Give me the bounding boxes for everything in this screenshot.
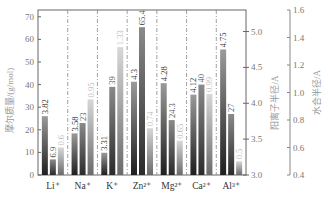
left-axis-label: 摩尔质量/(g/mol) (4, 68, 15, 134)
right-axis-tick: 5.0 (251, 27, 263, 37)
bar-value-label: 0.74 (145, 111, 155, 127)
category-label: Zn²⁺ (133, 181, 151, 191)
category-label: Al³⁺ (222, 181, 239, 191)
category-label: Na⁺ (75, 181, 91, 191)
bar (50, 159, 56, 175)
bar (139, 27, 145, 175)
outer-axis-tick: 1.6 (293, 5, 305, 15)
right-axis-tick: 3.5 (251, 134, 263, 144)
bar-value-label: 0.99 (204, 77, 214, 92)
right-axis-tick: 3.0 (251, 170, 263, 180)
outer-axis-tick: 0.6 (293, 143, 305, 153)
outer-axis-tick: 0.8 (293, 115, 305, 125)
left-axis-tick: 70 (25, 12, 35, 22)
bar-value-label: 0.65 (175, 124, 185, 139)
bar (72, 133, 78, 175)
bar (190, 95, 196, 175)
category-label: Li⁺ (46, 181, 59, 191)
bar-value-label: 24.3 (167, 103, 177, 118)
left-axis-tick: 60 (25, 34, 35, 44)
bar-value-label: 0.6 (56, 135, 66, 146)
bar (88, 99, 94, 175)
category-label: Mg²⁺ (161, 181, 182, 191)
right-axis-tick: 4.5 (251, 62, 263, 72)
bar (42, 116, 48, 175)
bar (206, 94, 212, 175)
category-label: K⁺ (106, 181, 118, 191)
outer-axis-tick: 0.4 (293, 170, 305, 180)
bar-value-label: 27 (226, 103, 236, 112)
bar (58, 148, 64, 176)
bar (117, 47, 123, 175)
outer-axis-label: 水合半径/Å (311, 69, 322, 115)
bar (101, 153, 107, 175)
left-axis-tick: 30 (25, 102, 35, 112)
category-label: Ca²⁺ (192, 181, 210, 191)
outer-axis-tick: 1.2 (293, 60, 304, 70)
bar-value-label: 4.3 (129, 69, 139, 80)
bar (80, 123, 86, 175)
right-axis-label: 阳离子半径/Å (269, 75, 280, 130)
left-axis-tick: 10 (25, 147, 35, 157)
bar-value-label: 3.31 (99, 136, 109, 151)
bar (131, 82, 137, 175)
bar-value-label: 23 (78, 113, 88, 122)
bar-value-label: 1.33 (115, 30, 125, 45)
outer-axis-tick: 1.4 (293, 33, 305, 43)
bar-value-label: 4.28 (159, 66, 169, 81)
left-axis-tick: 0 (30, 170, 35, 180)
bar-value-label: 4.75 (218, 33, 228, 48)
bar-value-label: 0.95 (86, 83, 96, 98)
bar-value-label: 65.4 (137, 10, 147, 26)
left-axis-tick: 50 (25, 57, 35, 67)
bar (228, 114, 234, 175)
bar-value-label: 6.9 (48, 147, 58, 158)
bar (177, 141, 183, 175)
bar-value-label: 3.82 (40, 99, 50, 114)
outer-axis-tick: 1.0 (293, 88, 305, 98)
bar (236, 161, 242, 175)
right-axis-tick: 4.0 (251, 98, 263, 108)
left-axis-tick: 20 (25, 125, 35, 135)
bar-value-label: 0.5 (234, 149, 244, 160)
bar (109, 87, 115, 175)
bar (161, 83, 167, 175)
bar (147, 128, 153, 175)
chart: 0102030405060703.03.54.04.55.00.40.60.81… (0, 0, 328, 209)
bar-value-label: 39 (107, 76, 117, 85)
left-axis-tick: 40 (25, 80, 35, 90)
bar (198, 85, 204, 175)
